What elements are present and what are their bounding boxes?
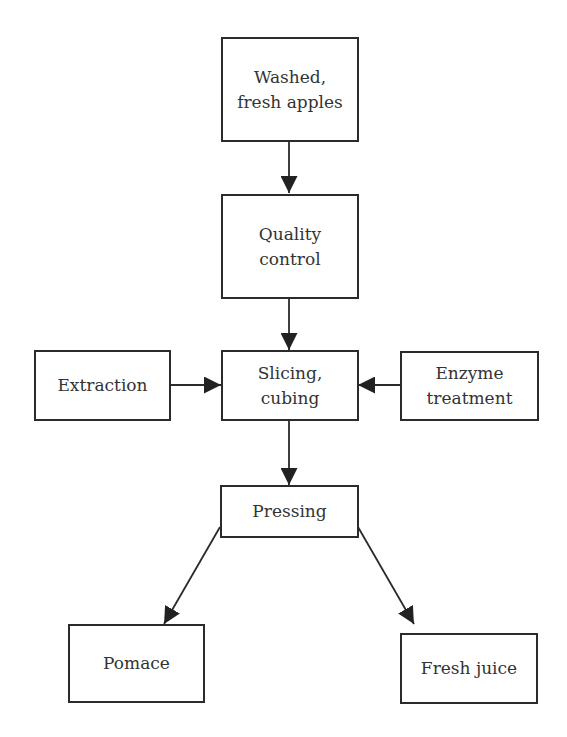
- node-enzyme-treatment: Enzyme treatment: [400, 351, 539, 421]
- node-label: Slicing, cubing: [258, 361, 323, 411]
- node-washed-fresh-apples: Washed, fresh apples: [221, 37, 359, 142]
- node-slicing-cubing: Slicing, cubing: [221, 350, 359, 421]
- flowchart-canvas: Washed, fresh apples Quality control Ext…: [0, 0, 567, 737]
- node-label: Fresh juice: [421, 656, 517, 681]
- node-pomace: Pomace: [68, 624, 205, 703]
- node-label: Quality control: [259, 222, 321, 272]
- arrow-pressing-to-pomace: [164, 527, 220, 624]
- node-label: Enzyme treatment: [427, 361, 513, 411]
- node-quality-control: Quality control: [221, 194, 359, 299]
- node-pressing: Pressing: [220, 485, 359, 538]
- node-extraction: Extraction: [34, 350, 171, 421]
- node-label: Pomace: [103, 651, 170, 676]
- node-fresh-juice: Fresh juice: [400, 633, 538, 704]
- arrow-pressing-to-fresh-juice: [358, 527, 414, 624]
- node-label: Pressing: [252, 499, 326, 524]
- node-label: Extraction: [57, 373, 147, 398]
- node-label: Washed, fresh apples: [237, 65, 343, 115]
